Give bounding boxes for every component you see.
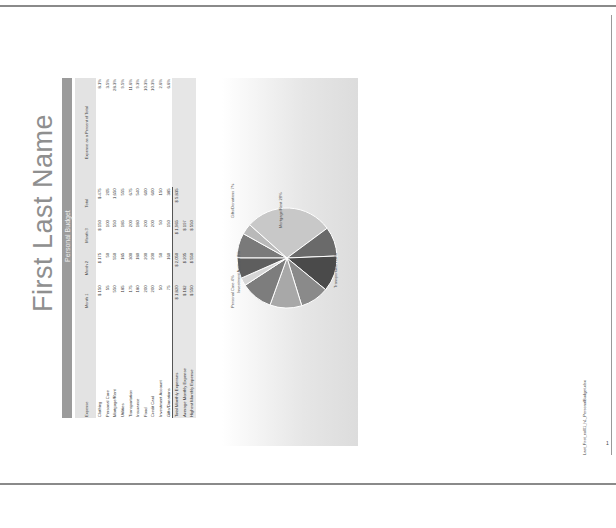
table-row: Credit Card20020020060010.3%	[149, 78, 157, 418]
summary-cell-total	[181, 187, 189, 219]
cell-label: Clothing	[96, 317, 104, 418]
summary-cell-m3: $ 550	[188, 219, 196, 252]
cell-label: Personal Care	[104, 317, 112, 418]
header-percent: Expense as a Percent of Total	[76, 78, 96, 187]
cell-pct: 9.3%	[134, 78, 142, 187]
cell-pct: 9.5%	[119, 78, 127, 187]
cell-m2: 200	[149, 252, 157, 285]
cell-m3: $ 150	[96, 219, 104, 252]
cell-label: Mortgage/Rent	[111, 317, 119, 418]
pie-chart-svg: Mortgage/Rent 28%Transportation 12%Perso…	[222, 78, 358, 446]
cell-total: 205	[104, 187, 112, 219]
cell-pct: 6.6%	[164, 78, 172, 187]
cell-m1: 75	[164, 284, 172, 317]
cell-total: $ 475	[96, 187, 104, 219]
budget-table-grid: Expense Month 1 Month 2 Month 3 Total Ex…	[76, 78, 196, 418]
cell-m2: 50	[157, 252, 165, 285]
cell-m3: 200	[149, 219, 157, 252]
cell-m1: 55	[104, 284, 112, 317]
title-text: First Last Name	[28, 72, 59, 312]
subtitle: Personal Budget	[64, 142, 71, 262]
cell-m1: 175	[126, 284, 134, 317]
cell-total: 600	[149, 187, 157, 219]
table-row: Mortgage/Rent5505505501,65028.3%	[111, 78, 119, 418]
summary-cell-label: Total Monthly Expenses	[172, 317, 180, 418]
cell-total: 555	[119, 187, 127, 219]
page-number: 1	[606, 440, 609, 446]
cell-label: Credit Card	[149, 317, 157, 418]
summary-cell-empty	[181, 78, 189, 187]
bottom-border	[0, 483, 616, 485]
cell-m3: 100	[104, 219, 112, 252]
cell-m1: 550	[111, 284, 119, 317]
cell-m1: 200	[142, 284, 150, 317]
summary-cell-m2: $ 205	[181, 252, 189, 285]
cell-total: 675	[126, 187, 134, 219]
header-month1: Month 1	[76, 284, 96, 317]
table-row: Gifts/Donations751601503856.6%	[164, 78, 172, 418]
summary-cell-label: Average Monthly Expense	[181, 317, 189, 418]
cell-m3: 180	[134, 219, 142, 252]
cell-m2: 200	[142, 252, 150, 285]
cell-m1: $ 150	[96, 284, 104, 317]
cell-total: 150	[157, 187, 165, 219]
summary-cell-m3: $ 197	[181, 219, 189, 252]
summary-cell-m2: $ 550	[188, 252, 196, 285]
budget-table: Expense Month 1 Month 2 Month 3 Total Ex…	[76, 78, 196, 418]
cell-label: Investment Account	[157, 317, 165, 418]
header-month3: Month 3	[76, 219, 96, 252]
cell-pct: 8.1%	[96, 78, 104, 187]
cell-label: Utilities	[119, 317, 127, 418]
footer-filename: Last_First_exl01_h1_PersonalBudget.xlsx	[582, 315, 587, 455]
summary-cell-m2: $ 2,050	[172, 252, 180, 285]
summary-row: Highest Monthly Expense$ 550$ 550$ 550	[188, 78, 196, 418]
header-month2: Month 2	[76, 252, 96, 285]
pie-label: Investment Account 3%	[236, 251, 241, 293]
cell-m3: 150	[164, 219, 172, 252]
cell-label: Food	[142, 317, 150, 418]
cell-pct: 2.6%	[157, 78, 165, 187]
summary-cell-m1: $ 1,820	[172, 284, 180, 317]
table-header-row: Expense Month 1 Month 2 Month 3 Total Ex…	[76, 78, 96, 418]
summary-cell-m1: $ 550	[188, 284, 196, 317]
header-total: Total	[76, 187, 96, 219]
cell-label: Gifts/Donations	[164, 317, 172, 418]
table-row: Personal Care55501002053.5%	[104, 78, 112, 418]
cell-label: Insurance	[134, 317, 142, 418]
summary-cell-m1: $ 182	[181, 284, 189, 317]
expense-pie-chart: Mortgage/Rent 28%Transportation 12%Perso…	[222, 78, 358, 446]
cell-total: 385	[164, 187, 172, 219]
summary-row: Total Monthly Expenses$ 1,820$ 2,050$ 1,…	[172, 78, 180, 418]
top-border	[0, 5, 616, 7]
cell-total: 600	[142, 187, 150, 219]
pie-label: Transportation 12%	[333, 253, 338, 288]
cell-pct: 28.3%	[111, 78, 119, 187]
cell-label: Transportation	[126, 317, 134, 418]
table-row: Clothing$ 150$ 175$ 150$ 4758.1%	[96, 78, 104, 418]
cell-m2: 160	[164, 252, 172, 285]
table-row: Insurance1801801805409.3%	[134, 78, 142, 418]
cell-total: 1,650	[111, 187, 119, 219]
cell-m1: 185	[119, 284, 127, 317]
summary-cell-label: Highest Monthly Expense	[188, 317, 196, 418]
header-expense: Expense	[76, 317, 96, 418]
cell-m3: 200	[126, 219, 134, 252]
summary-row: Average Monthly Expense$ 182$ 205$ 197	[181, 78, 189, 418]
cell-pct: 3.5%	[104, 78, 112, 187]
cell-m2: $ 175	[96, 252, 104, 285]
cell-m3: 550	[111, 219, 119, 252]
cell-total: 540	[134, 187, 142, 219]
cell-m1: 50	[157, 284, 165, 317]
pie-label: Gifts/Donations 7%	[230, 183, 235, 218]
page-right-edge	[611, 15, 612, 455]
summary-cell-empty	[188, 78, 196, 187]
cell-m2: 550	[111, 252, 119, 285]
cell-m2: 50	[104, 252, 112, 285]
summary-cell-total	[188, 187, 196, 219]
summary-cell-total: $ 5,835	[172, 187, 180, 219]
summary-cell-empty	[172, 78, 180, 187]
cell-m2: 180	[134, 252, 142, 285]
cell-pct: 10.3%	[149, 78, 157, 187]
pie-label: Personal Care 4%	[230, 275, 235, 308]
cell-m3: 200	[142, 219, 150, 252]
